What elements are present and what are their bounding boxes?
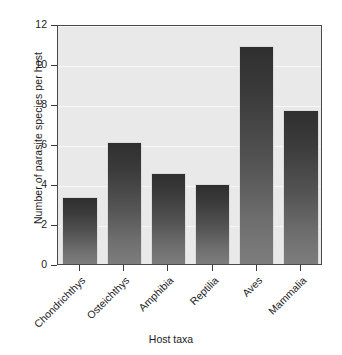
y-axis-tick-label: 2 — [7, 219, 47, 230]
y-axis-tick — [51, 185, 57, 186]
bar — [107, 142, 142, 264]
y-axis-tick-label: 4 — [7, 179, 47, 190]
plot-inner — [58, 26, 321, 264]
x-axis-tick — [256, 265, 257, 271]
x-axis-title: Host taxa — [0, 333, 342, 345]
x-axis-tick — [167, 265, 168, 271]
y-axis-tick — [51, 265, 57, 266]
y-axis-tick — [51, 25, 57, 26]
gridline — [58, 186, 321, 187]
y-axis-tick-label: 8 — [7, 99, 47, 110]
gridline — [58, 146, 321, 147]
y-axis-tick — [51, 105, 57, 106]
plot-area — [57, 25, 322, 265]
bar — [195, 184, 230, 264]
x-axis-tick — [212, 265, 213, 271]
x-axis-tick — [79, 265, 80, 271]
bar-chart-figure: Number of parasite species per host 0246… — [0, 0, 342, 355]
y-axis-tick — [51, 65, 57, 66]
y-axis-tick-label: 10 — [7, 59, 47, 70]
y-axis-tick-label: 12 — [7, 19, 47, 30]
bar — [62, 197, 97, 264]
y-axis-tick — [51, 145, 57, 146]
y-axis-tick-label: 0 — [7, 259, 47, 270]
y-axis-tick-label: 6 — [7, 139, 47, 150]
x-axis-tick — [300, 265, 301, 271]
bar — [239, 46, 274, 264]
bar — [151, 173, 186, 264]
x-axis-tick — [123, 265, 124, 271]
gridline — [58, 26, 321, 27]
y-axis-tick — [51, 225, 57, 226]
gridline — [58, 66, 321, 67]
bar — [283, 110, 318, 264]
gridline — [58, 106, 321, 107]
